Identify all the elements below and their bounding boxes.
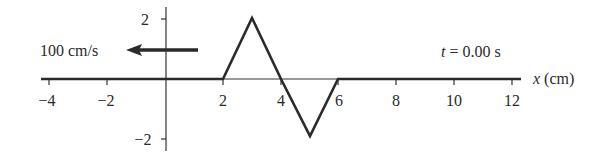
y-tick-label-top: 2: [141, 11, 149, 28]
y-tick-label-bottom: −2: [134, 131, 151, 148]
x-tick-label: 10: [446, 92, 462, 109]
x-tick-label: 8: [392, 92, 400, 109]
x-tick-label: −4: [38, 92, 55, 109]
x-tick-label: 12: [504, 92, 520, 109]
x-axis-label: x (cm): [532, 70, 574, 88]
x-tick-label: −2: [97, 92, 114, 109]
x-tick-label: 4: [277, 92, 285, 109]
velocity-label: 100 cm/s: [40, 42, 98, 59]
x-tick-label: 6: [335, 92, 343, 109]
time-label: t = 0.00 s: [441, 43, 501, 60]
wave-pulse-diagram: 2 −2 −4 −2 2 4 6 8 10 12 x (cm) 100: [0, 0, 603, 158]
diagram-canvas: 2 −2 −4 −2 2 4 6 8 10 12 x (cm) 100: [0, 0, 603, 158]
x-tick-label: 2: [219, 92, 227, 109]
wave-pulse: [41, 18, 521, 136]
